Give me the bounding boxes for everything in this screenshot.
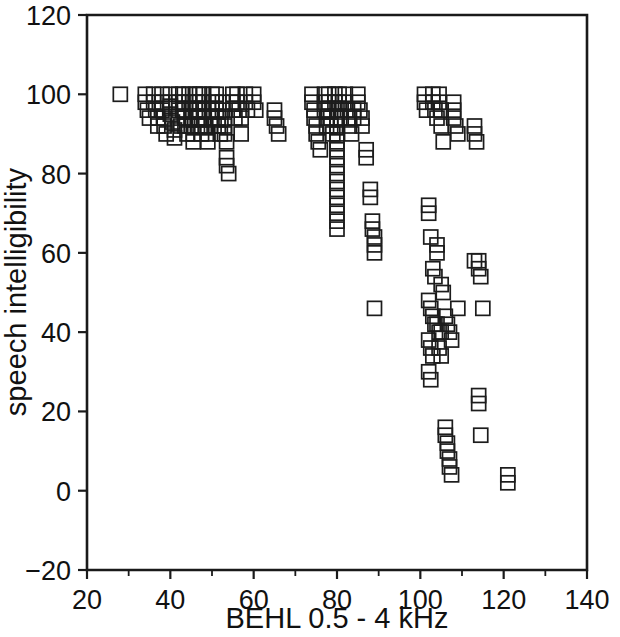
data-point-marker: [330, 198, 344, 212]
data-point-marker: [230, 87, 244, 101]
x-tick-label: 120: [481, 585, 526, 615]
data-point-marker: [268, 103, 282, 117]
data-point-marker: [468, 254, 482, 268]
y-tick-labels: −20020406080100120: [25, 1, 71, 586]
data-point-marker: [368, 301, 382, 315]
y-tick-label: 80: [41, 160, 71, 190]
y-tick-label: 20: [41, 397, 71, 427]
data-point-marker: [476, 301, 490, 315]
data-point-marker: [330, 190, 344, 204]
y-tick-label: 0: [56, 477, 71, 507]
data-point-marker: [418, 87, 432, 101]
y-tick-label: 100: [26, 80, 71, 110]
data-point-marker: [330, 151, 344, 165]
data-point-marker: [330, 182, 344, 196]
data-point-marker: [330, 143, 344, 157]
data-point-marker: [436, 135, 450, 149]
scatter-plot-figure: 20406080100120140 −20020406080100120 BEH…: [0, 0, 620, 637]
data-point-marker: [363, 190, 377, 204]
data-point-marker: [220, 151, 234, 165]
data-point-marker: [472, 254, 486, 268]
data-point-marker: [430, 246, 444, 260]
data-point-marker: [438, 420, 452, 434]
x-tick-label: 20: [72, 585, 102, 615]
x-tick-label: 40: [155, 585, 185, 615]
data-point-marker: [474, 428, 488, 442]
data-markers-group: [113, 87, 514, 490]
data-point-marker: [368, 238, 382, 252]
data-point-marker: [501, 468, 515, 482]
data-point-marker: [501, 476, 515, 490]
data-point-marker: [422, 198, 436, 212]
data-point-marker: [138, 87, 152, 101]
data-point-marker: [472, 389, 486, 403]
data-point-marker: [247, 87, 261, 101]
x-axis-title: BEHL 0.5 - 4 kHz: [226, 602, 449, 634]
data-point-marker: [422, 206, 436, 220]
data-point-marker: [368, 246, 382, 260]
y-tick-label: −20: [25, 556, 71, 586]
data-point-marker: [359, 151, 373, 165]
data-point-marker: [330, 214, 344, 228]
data-point-marker: [147, 87, 161, 101]
x-tick-label: 140: [564, 585, 609, 615]
data-point-marker: [330, 175, 344, 189]
data-point-marker: [234, 127, 248, 141]
plot-canvas: 20406080100120140 −20020406080100120 BEH…: [0, 0, 620, 637]
data-point-marker: [330, 135, 344, 149]
data-point-marker: [330, 167, 344, 181]
y-tick-label: 40: [41, 318, 71, 348]
y-tick-label: 120: [26, 1, 71, 31]
data-point-marker: [363, 182, 377, 196]
y-axis-title: speech intelligibility: [0, 167, 32, 416]
data-point-marker: [330, 206, 344, 220]
data-point-marker: [365, 214, 379, 228]
data-point-marker: [359, 143, 373, 157]
plot-frame: [87, 15, 587, 570]
data-point-marker: [468, 119, 482, 133]
data-point-marker: [330, 159, 344, 173]
data-point-marker: [330, 222, 344, 236]
data-point-marker: [472, 397, 486, 411]
y-tick-label: 60: [41, 239, 71, 269]
data-point-marker: [113, 87, 127, 101]
